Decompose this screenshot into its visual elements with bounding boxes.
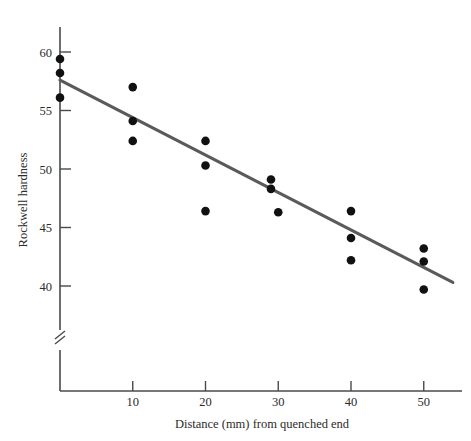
x-tick-label: 50 xyxy=(418,395,431,409)
data-point xyxy=(267,175,276,184)
data-point xyxy=(201,207,210,216)
y-axis-label: Rockwell hardness xyxy=(16,152,30,247)
x-tick-group: 1020304050 xyxy=(127,381,431,409)
x-tick-label: 10 xyxy=(127,395,140,409)
data-point xyxy=(201,137,210,146)
data-point xyxy=(419,285,428,294)
data-point xyxy=(347,256,356,265)
x-tick-label: 40 xyxy=(345,395,358,409)
data-point xyxy=(419,257,428,266)
data-point xyxy=(267,185,276,194)
y-tick-label: 50 xyxy=(40,163,53,177)
data-point xyxy=(201,161,210,170)
y-tick-label: 55 xyxy=(40,104,53,118)
data-point xyxy=(56,93,65,102)
data-point xyxy=(419,244,428,253)
data-point xyxy=(56,55,65,64)
data-point xyxy=(128,137,137,146)
data-point xyxy=(347,207,356,216)
axes xyxy=(55,27,462,391)
data-point xyxy=(56,69,65,78)
y-tick-label: 40 xyxy=(40,280,53,294)
x-tick-label: 30 xyxy=(272,395,285,409)
x-axis-label: Distance (mm) from quenched end xyxy=(175,417,350,431)
plot-canvas: 4045505560 1020304050 Rockwell hardness … xyxy=(0,0,471,441)
data-point xyxy=(128,117,137,126)
regression-line xyxy=(60,80,453,282)
data-point xyxy=(128,83,137,92)
data-point xyxy=(347,234,356,243)
data-point xyxy=(274,208,283,217)
scatter-plot-figure: 4045505560 1020304050 Rockwell hardness … xyxy=(0,0,471,441)
axis-break-icon xyxy=(55,331,65,344)
y-tick-label: 60 xyxy=(40,46,53,60)
x-tick-label: 20 xyxy=(199,395,212,409)
y-tick-label: 45 xyxy=(40,221,53,235)
